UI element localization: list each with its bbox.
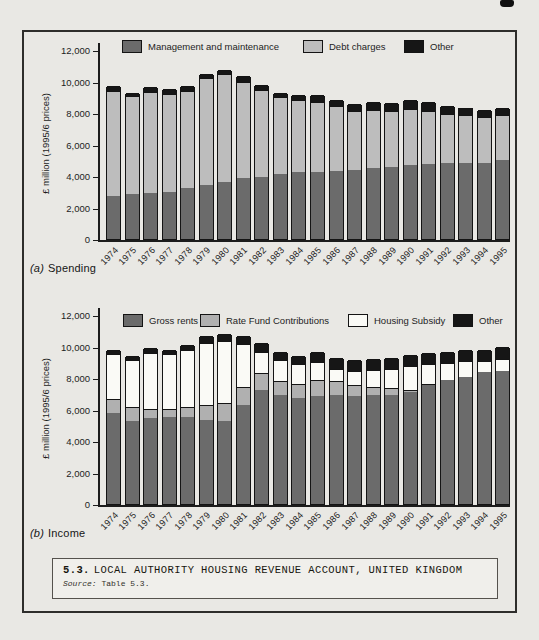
bar-1992: [440, 107, 455, 240]
bar-1980: [217, 71, 232, 240]
legend-label-rate-fund-contributions: Rate Fund Contributions: [226, 315, 329, 326]
segment-rate-fund-contributions: [181, 407, 194, 417]
segment-housing-subsidy: [367, 370, 380, 387]
bar-1981: [236, 77, 251, 240]
figure-title-text: LOCAL AUTHORITY HOUSING REVENUE ACCOUNT,…: [94, 564, 463, 576]
bar-1979: [199, 75, 214, 240]
segment-management-and-maintenance: [441, 163, 454, 239]
panel-title: Spending: [48, 262, 96, 274]
bar-1978: [180, 87, 195, 240]
panel-label-income: (b)Income: [30, 527, 85, 539]
legend-item-management-and-maintenance: Management and maintenance: [122, 39, 279, 53]
y-axis-line: [98, 43, 100, 240]
y-tick-mark: [93, 505, 98, 506]
segment-management-and-maintenance: [311, 172, 324, 239]
segment-management-and-maintenance: [348, 170, 361, 239]
segment-debt-charges: [478, 117, 491, 163]
segment-rate-fund-contributions: [200, 405, 213, 420]
y-tick-label: 4,000: [44, 171, 90, 183]
segment-housing-subsidy: [237, 344, 250, 387]
segment-management-and-maintenance: [255, 177, 268, 239]
segment-debt-charges: [404, 109, 417, 165]
segment-housing-subsidy: [181, 350, 194, 407]
segment-other: [478, 110, 491, 117]
segment-housing-subsidy: [255, 352, 268, 372]
segment-housing-subsidy: [144, 353, 157, 409]
bar-1976: [143, 88, 158, 240]
legend-item-gross-rents: Gross rents: [123, 313, 198, 327]
segment-other: [422, 353, 435, 364]
y-tick-mark: [93, 442, 98, 443]
panel-label-spending: (a)Spending: [30, 262, 96, 274]
bar-1979: [199, 337, 214, 505]
segment-management-and-maintenance: [422, 164, 435, 239]
bar-1988: [366, 103, 381, 240]
segment-other: [459, 350, 472, 362]
segment-rate-fund-contributions: [255, 373, 268, 390]
segment-gross-rents: [311, 396, 324, 504]
y-tick-mark: [93, 316, 98, 317]
segment-debt-charges: [459, 115, 472, 163]
panel-title: Income: [48, 527, 85, 539]
y-tick-mark: [93, 177, 98, 178]
segment-gross-rents: [218, 421, 231, 504]
bar-1991: [421, 103, 436, 240]
y-tick-label: 8,000: [44, 108, 90, 120]
segment-other: [292, 356, 305, 364]
bar-1987: [347, 105, 362, 240]
bar-1994: [477, 351, 492, 505]
bar-1983: [273, 353, 288, 505]
segment-gross-rents: [459, 377, 472, 504]
segment-debt-charges: [237, 82, 250, 179]
segment-rate-fund-contributions: [237, 387, 250, 405]
segment-debt-charges: [311, 102, 324, 172]
segment-debt-charges: [181, 91, 194, 188]
segment-housing-subsidy: [441, 363, 454, 380]
segment-housing-subsidy: [107, 354, 120, 399]
bar-1982: [254, 86, 269, 240]
y-tick-label: 6,000: [44, 140, 90, 152]
figure-source: Source: Table 5.3.: [63, 579, 489, 588]
segment-gross-rents: [385, 395, 398, 504]
bar-1988: [366, 360, 381, 505]
segment-debt-charges: [163, 94, 176, 192]
y-tick-label: 12,000: [44, 310, 90, 322]
y-tick-mark: [93, 411, 98, 412]
legend-label-housing-subsidy: Housing Subsidy: [374, 315, 445, 326]
segment-gross-rents: [255, 390, 268, 504]
bar-1981: [236, 337, 251, 505]
segment-housing-subsidy: [200, 343, 213, 405]
segment-debt-charges: [218, 74, 231, 181]
bar-1984: [291, 96, 306, 240]
segment-gross-rents: [237, 405, 250, 504]
segment-gross-rents: [163, 417, 176, 504]
bar-1980: [217, 335, 232, 505]
segment-housing-subsidy: [292, 364, 305, 384]
bar-1978: [180, 346, 195, 505]
panel-letter: (b): [30, 527, 44, 539]
segment-debt-charges: [200, 78, 213, 185]
segment-other: [478, 350, 491, 361]
segment-debt-charges: [255, 90, 268, 177]
segment-debt-charges: [292, 100, 305, 172]
bar-1975: [125, 94, 140, 240]
source-label: Source:: [63, 579, 97, 588]
y-tick-mark: [93, 209, 98, 210]
figure-number: 5.3.: [63, 564, 90, 576]
segment-debt-charges: [367, 110, 380, 168]
segment-gross-rents: [144, 418, 157, 504]
segment-debt-charges: [496, 115, 509, 160]
segment-other: [274, 352, 287, 360]
segment-housing-subsidy: [163, 354, 176, 408]
bar-1993: [458, 108, 473, 240]
segment-management-and-maintenance: [274, 174, 287, 239]
bar-1977: [162, 90, 177, 240]
segment-rate-fund-contributions: [292, 384, 305, 398]
legend-swatch-debt-charges: [303, 40, 323, 53]
segment-management-and-maintenance: [496, 160, 509, 239]
segment-housing-subsidy: [348, 371, 361, 385]
bar-1989: [384, 359, 399, 505]
segment-other: [404, 100, 417, 109]
segment-debt-charges: [348, 111, 361, 170]
y-tick-label: 4,000: [44, 436, 90, 448]
